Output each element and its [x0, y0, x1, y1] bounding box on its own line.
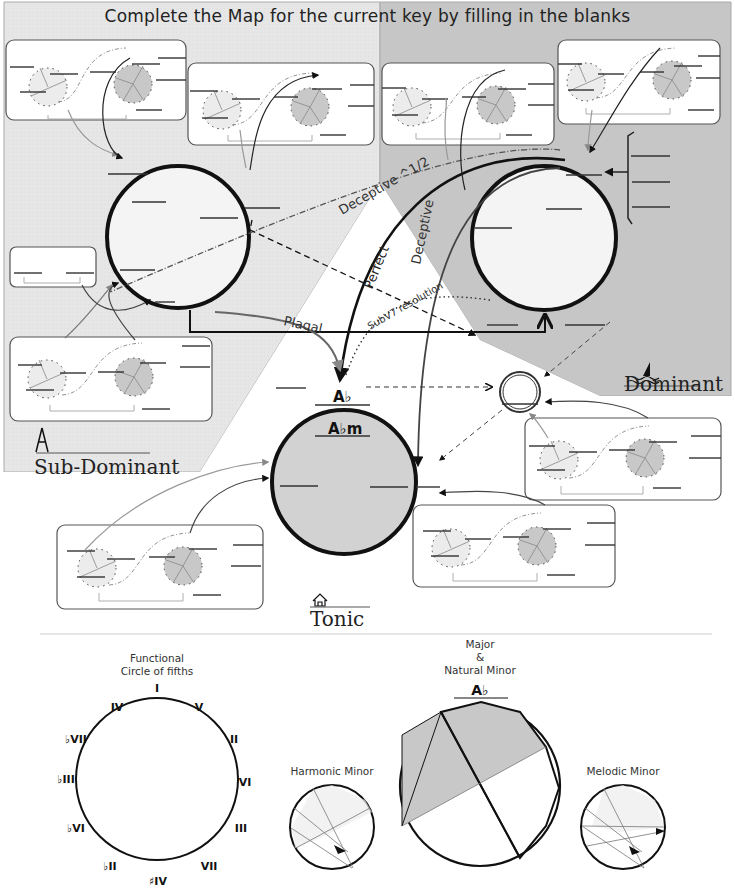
chord-panel-7: [413, 505, 615, 587]
key-label: A♭: [471, 682, 488, 698]
svg-text:IV: IV: [111, 701, 124, 714]
subdominant-label: Sub-Dominant: [34, 455, 179, 479]
secondary-dominant-circle: [500, 372, 540, 412]
svg-text:Natural Minor: Natural Minor: [444, 664, 516, 676]
chord-panel-3: [382, 63, 554, 145]
svg-text:Functional: Functional: [130, 652, 184, 664]
major-natural-minor-diagram: Major & Natural Minor A♭: [400, 638, 560, 866]
chord-panel-6: [525, 418, 721, 500]
map-canvas: Deceptive ^1/2 Perfect Deceptive Plagal …: [0, 0, 735, 894]
tonic-minor-key: A♭m: [328, 420, 362, 438]
page-title: Complete the Map for the current key by …: [0, 6, 735, 26]
chord-panel-4: [558, 40, 720, 124]
chord-panel-1: [6, 40, 186, 120]
svg-text:I: I: [155, 682, 159, 695]
svg-text:Circle of fifths: Circle of fifths: [121, 665, 194, 677]
svg-text:♭VI: ♭VI: [67, 822, 85, 835]
tonic-major-key: A♭: [333, 388, 352, 406]
svg-text:&: &: [476, 651, 484, 663]
svg-text:V: V: [195, 701, 204, 714]
svg-text:II: II: [230, 733, 238, 746]
melodic-minor-diagram: Melodic Minor: [581, 765, 665, 869]
svg-text:Major: Major: [465, 638, 495, 650]
chord-panel-8: [57, 525, 263, 609]
svg-text:Melodic Minor: Melodic Minor: [587, 765, 661, 777]
chord-panel-2: [188, 63, 374, 145]
dominant-label: Dominant: [624, 372, 723, 396]
small-chord-box: [10, 247, 96, 287]
svg-text:Harmonic Minor: Harmonic Minor: [290, 765, 374, 777]
harmony-map: Deceptive ^1/2 Perfect Deceptive Plagal …: [0, 0, 735, 894]
svg-text:III: III: [235, 822, 247, 835]
svg-text:VII: VII: [201, 860, 218, 873]
functional-circle-of-fifths: Functional Circle of fifths I V II VI II…: [57, 652, 251, 888]
svg-text:♭VII: ♭VII: [65, 733, 87, 746]
tonic-label: Tonic: [310, 607, 364, 631]
svg-text:♭III: ♭III: [57, 773, 74, 786]
svg-text:VI: VI: [239, 776, 252, 789]
svg-text:♭II: ♭II: [103, 860, 116, 873]
svg-text:♯IV: ♯IV: [149, 875, 167, 888]
harmonic-minor-diagram: Harmonic Minor: [290, 765, 374, 869]
chord-panel-5: [10, 337, 212, 421]
